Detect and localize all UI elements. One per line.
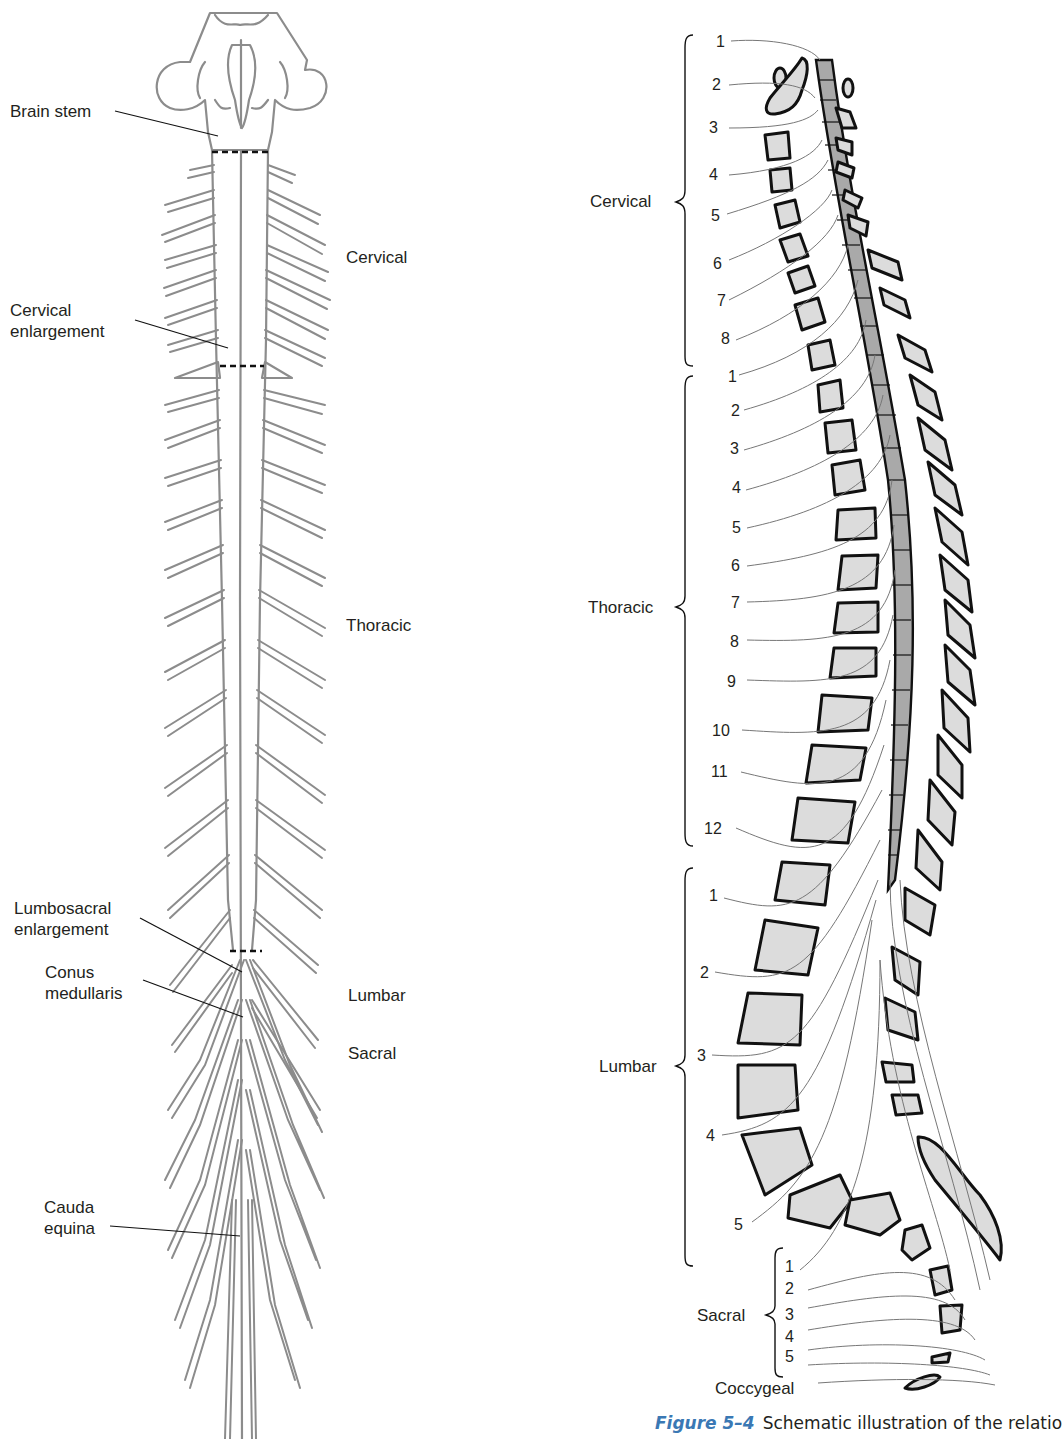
sacral-number: 1 [785,1258,794,1276]
sacral-number: 2 [785,1280,794,1298]
cervical-number: 2 [712,76,721,94]
lumbar-number: 3 [697,1047,706,1065]
region-label-sacral: Sacral [348,1043,396,1064]
thoracic-number: 12 [704,820,722,838]
vertebral-bodies [738,58,1001,1389]
thoracic-number: 5 [732,519,741,537]
cervical-number: 8 [721,330,730,348]
group-label-cervical: Cervical [590,191,651,212]
thoracic-number: 7 [731,594,740,612]
lumbar-number: 4 [706,1127,715,1145]
sacral-number: 4 [785,1328,794,1346]
thoracic-number: 10 [712,722,730,740]
figure-number: Figure 5–4 [655,1413,755,1433]
label-conus-medullaris-line2: medullaris [45,983,122,1004]
group-label-sacral: Sacral [697,1305,745,1326]
lumbar-number: 5 [734,1216,743,1234]
lumbar-number: 1 [709,887,718,905]
thoracic-number: 6 [731,557,740,575]
thoracic-number: 3 [730,440,739,458]
label-cervical-enlargement-line2: enlargement [10,321,105,342]
thoracic-number: 11 [711,763,728,781]
group-label-lumbar: Lumbar [599,1056,657,1077]
label-lumbosacral-enlargement-line1: Lumbosacral [14,898,111,919]
caption-text: Schematic illustration of the relatio [763,1413,1062,1433]
thoracic-number: 1 [728,368,737,386]
figure-caption: Figure 5–4Schematic illustration of the … [655,1413,1062,1433]
sacral-number: 3 [785,1306,794,1324]
cervical-number: 5 [711,207,720,225]
thoracic-number: 8 [730,633,739,651]
region-label-lumbar: Lumbar [348,985,406,1006]
cervical-number: 1 [716,33,725,51]
thoracic-number: 4 [732,479,741,497]
label-conus-medullaris-line1: Conus [45,962,94,983]
label-cauda-equina-line2: equina [44,1218,95,1239]
label-lumbosacral-enlargement-line2: enlargement [14,919,109,940]
lumbar-number: 2 [700,964,709,982]
label-cervical-enlargement-line1: Cervical [10,300,71,321]
cervical-number: 4 [709,166,718,184]
region-label-thoracic: Thoracic [346,615,411,636]
cervical-number: 3 [709,119,718,137]
label-cauda-equina-line1: Cauda [44,1197,94,1218]
thoracic-number: 9 [727,673,736,691]
cervical-number: 6 [713,255,722,273]
sacral-number: 5 [785,1348,794,1366]
group-label-thoracic: Thoracic [588,597,653,618]
cervical-number: 7 [717,292,726,310]
region-label-cervical: Cervical [346,247,407,268]
spinal-nerve-roots [162,165,330,1439]
thoracic-number: 2 [731,402,740,420]
group-label-coccygeal: Coccygeal [715,1378,794,1399]
label-brain-stem: Brain stem [10,101,91,122]
